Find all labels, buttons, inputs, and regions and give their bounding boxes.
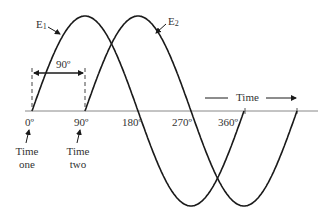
tick-label-360: 360º [218,117,238,128]
time-axis-label: Time [236,92,259,103]
time-one-pointer [26,130,29,143]
phase-diagram: E1 E2 90º Time 0º 90º 180º 270º 360º Tim… [0,0,332,222]
phase-difference-label: 90º [56,59,70,70]
e2-label: E2 [168,16,179,28]
tick-label-180: 180º [122,117,142,128]
tick-label-90: 90º [74,117,88,128]
e2-pointer-arrow [156,24,166,33]
e1-label: E1 [36,19,47,31]
tick-label-270: 270º [172,117,192,128]
time-one-label: Time one [12,146,42,170]
tick-label-0: 0º [25,117,34,128]
diagram-canvas [0,0,332,222]
time-two-label: Time two [63,146,93,170]
e1-pointer-arrow [48,27,60,34]
time-two-pointer [77,130,80,143]
